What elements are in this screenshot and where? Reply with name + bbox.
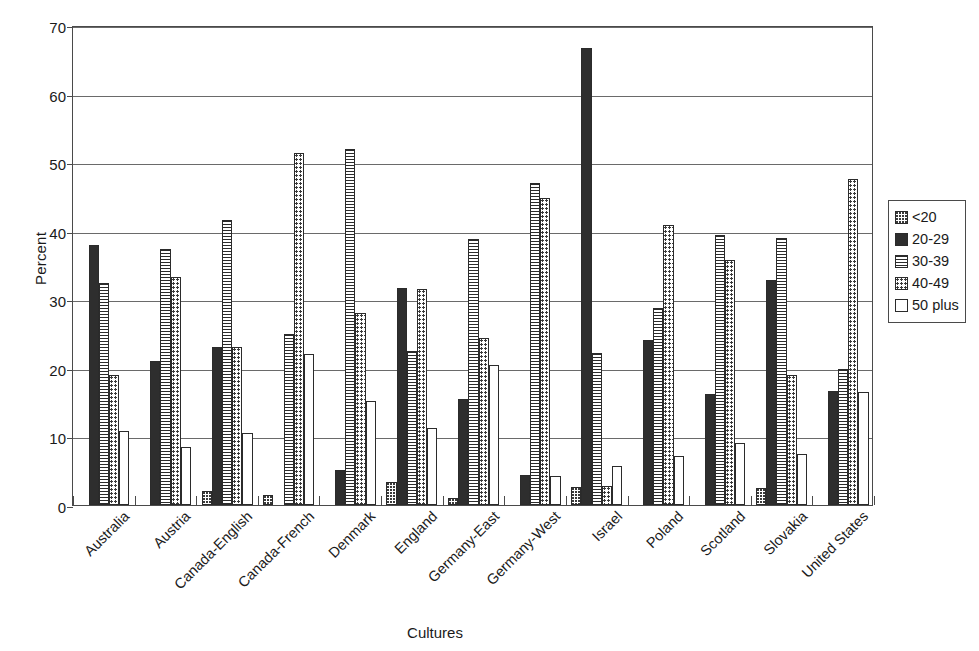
bar [592, 353, 602, 505]
bar-groups [73, 27, 872, 505]
bar-group [812, 27, 874, 505]
bar-group [566, 27, 628, 505]
bar [848, 179, 858, 505]
bar [232, 347, 242, 505]
legend-item: 20-29 [895, 228, 959, 250]
bar [828, 391, 838, 506]
bar [109, 375, 119, 505]
bar [489, 365, 499, 505]
bar [222, 220, 232, 505]
legend-item: <20 [895, 206, 959, 228]
x-tick-label: Austria [151, 508, 194, 551]
bar [407, 351, 417, 505]
bar [715, 235, 725, 505]
legend-swatch-icon [895, 233, 908, 246]
bar [427, 428, 437, 505]
bar [735, 443, 745, 505]
legend-item: 40-49 [895, 272, 959, 294]
bar [643, 340, 653, 505]
x-tick-label: Israel [589, 508, 625, 544]
bar [530, 183, 540, 505]
bar-group [73, 27, 135, 505]
legend-label: 30-39 [912, 253, 949, 269]
bar [787, 375, 797, 505]
bar [448, 498, 458, 505]
bar [417, 289, 427, 505]
bar [674, 456, 684, 505]
legend-label: 50 plus [912, 297, 959, 313]
bar [581, 48, 591, 505]
bar [397, 288, 407, 505]
legend-item: 30-39 [895, 250, 959, 272]
bar [202, 491, 212, 505]
bar [756, 488, 766, 505]
bar [160, 249, 170, 505]
bar-chart: Percent 010203040506070 AustraliaAustria… [0, 0, 979, 651]
x-tick-label: Slovakia [760, 508, 810, 558]
bar-group [443, 27, 505, 505]
bar [612, 466, 622, 505]
legend-swatch-icon [895, 277, 908, 290]
legend-swatch-icon [895, 211, 908, 224]
bar [663, 225, 673, 505]
x-tick-label: Denmark [326, 508, 379, 561]
y-axis-title: Percent [32, 199, 49, 319]
bar [366, 401, 376, 505]
bar [571, 487, 581, 506]
bar [99, 283, 109, 505]
bar-group [751, 27, 813, 505]
bar [89, 245, 99, 505]
bar [119, 431, 129, 505]
bar-group [689, 27, 751, 505]
legend-swatch-icon [895, 255, 908, 268]
bar-group [258, 27, 320, 505]
bar-group [504, 27, 566, 505]
bar [150, 361, 160, 505]
x-tick-mark [874, 496, 875, 505]
bar [458, 399, 468, 505]
y-tick-label: 50 [49, 156, 66, 173]
bar [181, 447, 191, 505]
legend-label: 20-29 [912, 231, 949, 247]
bar [766, 280, 776, 505]
bar [304, 354, 314, 505]
x-tick-label: Scotland [697, 508, 748, 559]
bar [705, 394, 715, 505]
legend-label: <20 [912, 209, 937, 225]
bar [468, 239, 478, 505]
y-tick-label: 40 [49, 224, 66, 241]
bar [550, 476, 560, 505]
bar [479, 338, 489, 505]
y-tick-label: 60 [49, 87, 66, 104]
x-axis-title: Cultures [0, 624, 870, 641]
x-tick-label: Australia [81, 508, 132, 559]
bar [776, 238, 786, 505]
x-axis-tick-labels: AustraliaAustriaCanada-EnglishCanada-Fre… [72, 508, 873, 628]
plot-area: 010203040506070 [72, 26, 873, 506]
bar [386, 482, 396, 505]
bar [725, 260, 735, 505]
bar [540, 198, 550, 505]
y-tick-label: 10 [49, 430, 66, 447]
bar-group [319, 27, 381, 505]
legend-label: 40-49 [912, 275, 949, 291]
bar [345, 149, 355, 505]
bar [838, 369, 848, 505]
legend-item: 50 plus [895, 294, 959, 316]
y-tick-label: 0 [58, 499, 66, 516]
legend: <2020-2930-3940-4950 plus [888, 200, 966, 323]
bar [263, 495, 273, 505]
bar [653, 308, 663, 505]
bar [242, 433, 252, 505]
y-tick-label: 30 [49, 293, 66, 310]
bar-group [381, 27, 443, 505]
x-tick-label: England [391, 508, 440, 557]
bar-group [135, 27, 197, 505]
x-tick-mark [73, 496, 74, 505]
bar [858, 392, 868, 505]
bar [335, 470, 345, 505]
bar [520, 475, 530, 505]
y-tick-label: 20 [49, 361, 66, 378]
bar [212, 347, 222, 505]
bar [294, 153, 304, 505]
